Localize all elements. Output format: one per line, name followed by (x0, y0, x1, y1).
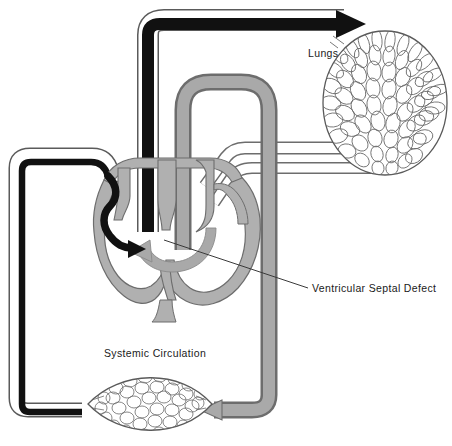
label-lungs: Lungs (308, 47, 338, 59)
vsd-diagram-canvas: Lungs Systemic Circulation Ventricular S… (0, 0, 452, 446)
label-systemic-circulation: Systemic Circulation (104, 347, 206, 359)
vsd-diagram-figure: Lungs Systemic Circulation Ventricular S… (0, 0, 452, 446)
label-ventricular-septal-defect: Ventricular Septal Defect (312, 282, 436, 294)
